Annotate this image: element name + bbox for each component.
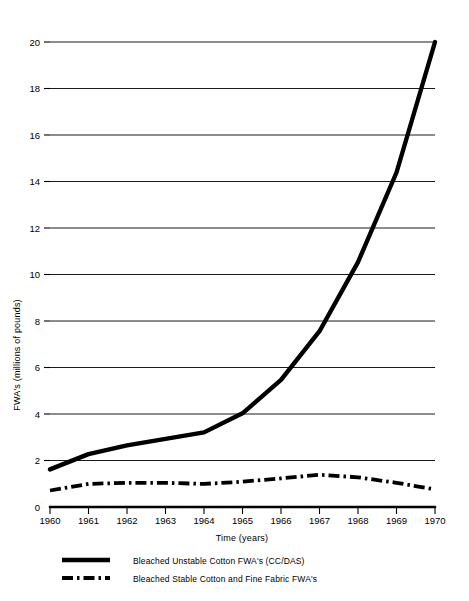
y-tick-label: 4 (35, 409, 40, 420)
y-tick-marks (44, 42, 50, 461)
y-axis-title: FWA's (millions of pounds) (12, 299, 22, 411)
y-tick-label: 18 (29, 83, 40, 94)
x-tick-label: 1961 (78, 515, 99, 526)
x-tick-label: 1962 (116, 515, 137, 526)
y-tick-label: 14 (29, 176, 40, 187)
x-tick-label: 1967 (309, 515, 330, 526)
y-tick-label: 16 (29, 130, 40, 141)
x-tick-label: 1968 (347, 515, 368, 526)
series-line-bleached-unstable-cotton (50, 42, 435, 469)
legend-item-bleached-unstable-cotton: Bleached Unstable Cotton FWA's (CC/DAS) (62, 556, 305, 566)
x-tick-label: 1960 (39, 515, 60, 526)
y-tick-label: 8 (35, 316, 40, 327)
legend-item-bleached-stable-cotton: Bleached Stable Cotton and Fine Fabric F… (62, 574, 317, 584)
x-tick-label: 1966 (270, 515, 291, 526)
x-tick-label: 1969 (386, 515, 407, 526)
x-axis-title: Time (years) (216, 533, 269, 543)
chart-figure: 20 18 16 14 12 10 8 6 4 2 0 FWA's (milli… (0, 0, 469, 601)
y-tick-label: 0 (35, 502, 40, 513)
y-tick-label: 12 (29, 223, 40, 234)
y-tick-labels: 20 18 16 14 12 10 8 6 4 2 0 (29, 37, 40, 513)
legend-label: Bleached Stable Cotton and Fine Fabric F… (133, 574, 317, 584)
y-tick-label: 6 (35, 362, 40, 373)
x-tick-label: 1964 (193, 515, 214, 526)
series-line-bleached-stable-cotton (50, 475, 435, 491)
x-tick-label: 1965 (232, 515, 253, 526)
y-tick-label: 10 (29, 269, 40, 280)
chart-svg: 20 18 16 14 12 10 8 6 4 2 0 FWA's (milli… (0, 0, 469, 601)
y-tick-label: 2 (35, 455, 40, 466)
legend: Bleached Unstable Cotton FWA's (CC/DAS) … (62, 556, 317, 584)
gridlines (50, 42, 435, 461)
x-tick-label: 1963 (155, 515, 176, 526)
x-tick-labels: 1960 1961 1962 1963 1964 1965 1966 1967 … (39, 515, 445, 526)
x-tick-label: 1970 (424, 515, 445, 526)
legend-label: Bleached Unstable Cotton FWA's (CC/DAS) (133, 556, 305, 566)
y-tick-label: 20 (29, 37, 40, 48)
